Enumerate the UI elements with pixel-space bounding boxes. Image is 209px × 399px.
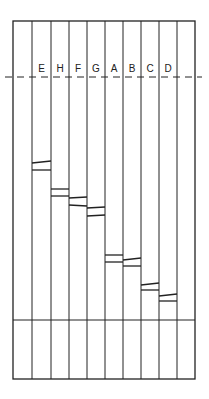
band-g-2: [87, 215, 105, 216]
band-f-2: [69, 205, 87, 206]
lane-label-c: C: [146, 63, 153, 74]
band-g-1: [87, 207, 105, 208]
gel-frame: [5, 21, 202, 379]
gel-diagram: EHFGABCD: [0, 0, 209, 399]
lane-label-e: E: [38, 63, 45, 74]
lane-label-d: D: [164, 63, 171, 74]
band-b-1: [123, 258, 141, 260]
lane-label-f: F: [75, 63, 81, 74]
gel-lanes: [32, 21, 177, 379]
lane-label-g: G: [92, 63, 100, 74]
band-e-1: [32, 161, 51, 163]
band-f-1: [69, 197, 87, 198]
lane-label-h: H: [56, 63, 63, 74]
gel-outline: [13, 21, 195, 379]
band-c-1: [141, 283, 159, 285]
lane-label-b: B: [129, 63, 136, 74]
band-d-1: [159, 294, 177, 296]
lane-label-a: A: [111, 63, 118, 74]
